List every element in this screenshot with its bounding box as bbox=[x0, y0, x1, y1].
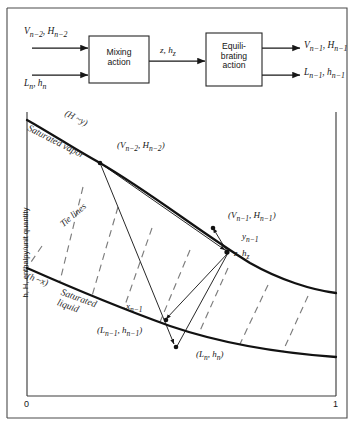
y-axis-label: h, H, enthalpy/unit quantity bbox=[21, 168, 30, 338]
flow-input-vapor-label: Vn−2, Hn−2 bbox=[24, 26, 67, 39]
point-L-n-1 bbox=[164, 318, 169, 323]
label-point-L-n: (Ln, hn) bbox=[196, 349, 224, 362]
point-L-n bbox=[174, 345, 179, 350]
diagram-canvas bbox=[0, 0, 354, 426]
x-tick-1: 1 bbox=[333, 399, 338, 409]
mixing-line2: action bbox=[89, 58, 149, 68]
line-vapor-to-Ln bbox=[100, 163, 174, 344]
figure-root: Vn−2, Hn−2 Ln, hn z, hz Vn−1, Hn−1 Ln−1,… bbox=[0, 0, 354, 426]
line-vapor-to-z bbox=[100, 163, 225, 250]
flow-output-vapor-label: Vn−1, Hn−1 bbox=[304, 40, 347, 53]
marked-points bbox=[98, 161, 230, 350]
label-point-V-n-1: (Vn−1, Hn−1) bbox=[228, 210, 276, 223]
label-y-n-1: yn−1 bbox=[242, 231, 259, 244]
flow-intermediate-label: z, hz bbox=[160, 45, 176, 58]
label-point-L-n-1: (Ln−1, hn−1) bbox=[97, 325, 142, 338]
equil-line3: action bbox=[206, 61, 262, 71]
label-point-z: z, hz bbox=[234, 248, 249, 261]
flow-input-liquid-label: Ln, hn bbox=[24, 78, 46, 91]
equilibrating-action-caption: Equili- brating action bbox=[206, 42, 262, 71]
label-x-n-1: xn−1 bbox=[126, 301, 143, 314]
point-V-n-2 bbox=[98, 161, 103, 166]
point-z bbox=[224, 249, 229, 254]
flow-output-liquid-label: Ln−1, hn−1 bbox=[304, 67, 345, 80]
label-point-V-n-2: (Vn−2, Hn−2) bbox=[117, 140, 165, 153]
x-tick-0: 0 bbox=[24, 399, 29, 409]
mixing-action-caption: Mixing action bbox=[89, 48, 149, 67]
point-V-n-1 bbox=[211, 226, 216, 231]
